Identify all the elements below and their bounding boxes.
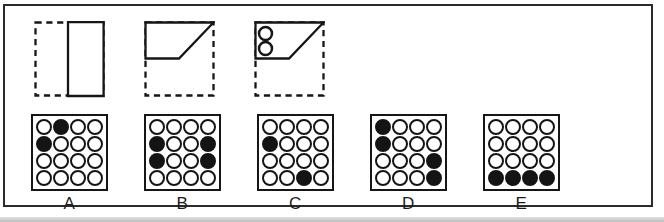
dot-grid-B (144, 114, 221, 191)
answer-option-A[interactable]: A (31, 114, 108, 212)
empty-dot (183, 153, 199, 169)
empty-dot (409, 136, 425, 152)
empty-dot (166, 119, 182, 135)
empty-dot (200, 170, 216, 186)
fold-step-1-right-half-rectangle (34, 21, 105, 98)
empty-dot (392, 119, 408, 135)
empty-dot (36, 153, 52, 169)
option-label: D (402, 195, 415, 212)
empty-dot (279, 136, 295, 152)
fold-step-3-trapezoid-with-punched-holes (254, 21, 325, 98)
empty-dot (375, 153, 391, 169)
option-label: E (516, 195, 528, 212)
dot-grid-C (257, 114, 334, 191)
filled-dot (200, 153, 216, 169)
empty-dot (149, 170, 165, 186)
empty-dot (313, 119, 329, 135)
empty-dot (36, 119, 52, 135)
empty-dot (166, 170, 182, 186)
empty-dot (87, 136, 103, 152)
dot-grid-A (31, 114, 108, 191)
empty-dot (53, 170, 69, 186)
empty-dot (313, 136, 329, 152)
empty-dot (296, 136, 312, 152)
filled-dot (200, 136, 216, 152)
answer-options-row: ABCDE (31, 114, 560, 212)
filled-dot (488, 170, 504, 186)
dot-grid-D (370, 114, 447, 191)
answer-option-E[interactable]: E (483, 114, 560, 212)
empty-dot (522, 136, 538, 152)
dot-grid-E (483, 114, 560, 191)
answer-option-B[interactable]: B (144, 114, 221, 212)
empty-dot (53, 136, 69, 152)
empty-dot (313, 153, 329, 169)
empty-dot (313, 170, 329, 186)
filled-dot (149, 136, 165, 152)
folded-paper-shape (146, 23, 214, 59)
empty-dot (36, 170, 52, 186)
empty-dot (505, 119, 521, 135)
empty-dot (279, 153, 295, 169)
filled-dot (375, 136, 391, 152)
filled-dot (539, 170, 555, 186)
empty-dot (183, 119, 199, 135)
empty-dot (488, 136, 504, 152)
empty-dot (70, 119, 86, 135)
empty-dot (87, 119, 103, 135)
filled-dot (53, 119, 69, 135)
empty-dot (426, 136, 442, 152)
empty-dot (296, 153, 312, 169)
empty-dot (505, 136, 521, 152)
empty-dot (262, 153, 278, 169)
empty-dot (409, 119, 425, 135)
option-label: A (64, 195, 76, 212)
empty-dot (409, 153, 425, 169)
empty-dot (539, 136, 555, 152)
answer-option-C[interactable]: C (257, 114, 334, 212)
puzzle-canvas: ABCDE (0, 0, 664, 222)
empty-dot (539, 153, 555, 169)
empty-dot (53, 153, 69, 169)
empty-dot (166, 153, 182, 169)
answer-option-D[interactable]: D (370, 114, 447, 212)
empty-dot (183, 170, 199, 186)
filled-dot (505, 170, 521, 186)
empty-dot (522, 119, 538, 135)
empty-dot (488, 119, 504, 135)
folded-paper-shape (68, 22, 104, 96)
empty-dot (375, 170, 391, 186)
empty-dot (279, 119, 295, 135)
empty-dot (70, 153, 86, 169)
empty-dot (87, 170, 103, 186)
empty-dot (296, 119, 312, 135)
empty-dot (262, 119, 278, 135)
filled-dot (36, 136, 52, 152)
empty-dot (70, 170, 86, 186)
empty-dot (539, 119, 555, 135)
empty-dot (166, 136, 182, 152)
empty-dot (392, 136, 408, 152)
option-label: C (289, 195, 302, 212)
empty-dot (505, 153, 521, 169)
filled-dot (426, 170, 442, 186)
scan-artifact-band (0, 217, 664, 222)
empty-dot (200, 119, 216, 135)
empty-dot (426, 119, 442, 135)
empty-dot (70, 136, 86, 152)
filled-dot (296, 170, 312, 186)
filled-dot (375, 119, 391, 135)
filled-dot (262, 136, 278, 152)
filled-dot (149, 153, 165, 169)
filled-dot (522, 170, 538, 186)
filled-dot (426, 153, 442, 169)
empty-dot (279, 170, 295, 186)
empty-dot (522, 153, 538, 169)
empty-dot (488, 153, 504, 169)
empty-dot (183, 136, 199, 152)
outer-frame: ABCDE (3, 4, 653, 207)
empty-dot (409, 170, 425, 186)
empty-dot (87, 153, 103, 169)
option-label: B (177, 195, 189, 212)
empty-dot (392, 170, 408, 186)
